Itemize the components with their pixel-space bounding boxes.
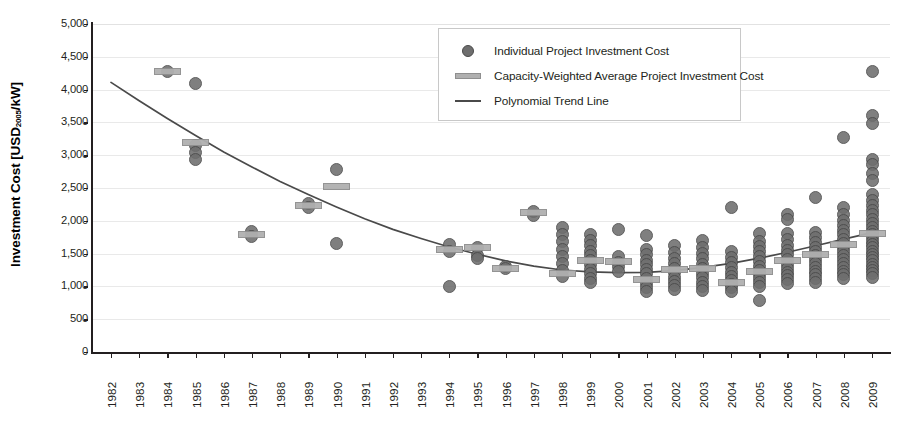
x-tick-label: 2008 (838, 362, 851, 408)
scatter-point (584, 276, 597, 289)
x-tick-label: 1993 (415, 362, 428, 408)
x-tick-mark (449, 352, 450, 358)
y-tick-label: 5,000 (44, 17, 88, 29)
y-tick-mark (84, 122, 88, 123)
x-tick-label: 1991 (359, 362, 372, 408)
gridline (93, 24, 890, 25)
x-tick-mark (196, 352, 197, 358)
scatter-point (837, 131, 850, 144)
x-tick-mark (844, 352, 845, 358)
x-tick-label: 1990 (331, 362, 344, 408)
y-tick-label: 500 (44, 312, 88, 324)
scatter-point (330, 163, 343, 176)
x-tick-label: 1987 (246, 362, 259, 408)
capacity-weighted-average-marker (774, 257, 801, 264)
y-axis-title: Investment Cost [USD2005/kW] (2, 0, 28, 351)
x-tick-mark (647, 352, 648, 358)
y-tick-label: 1,500 (44, 247, 88, 259)
scatter-point (640, 229, 653, 242)
scatter-point (189, 153, 202, 166)
scatter-point (753, 280, 766, 293)
capacity-weighted-average-marker (295, 202, 322, 209)
capacity-weighted-average-marker (577, 257, 604, 264)
y-tick-label: 2,000 (44, 214, 88, 226)
x-tick-mark (111, 352, 112, 358)
gridline (93, 286, 890, 287)
chart-legend: Individual Project Investment Cost Capac… (438, 28, 741, 121)
scatter-point (668, 283, 681, 296)
capacity-weighted-average-marker (859, 230, 886, 237)
scatter-point (725, 285, 738, 298)
x-tick-label: 1989 (302, 362, 315, 408)
x-tick-label: 2006 (781, 362, 794, 408)
scatter-point (781, 277, 794, 290)
capacity-weighted-average-marker (746, 268, 773, 275)
x-tick-label: 2005 (753, 362, 766, 408)
x-tick-label: 1996 (500, 362, 513, 408)
scatter-point (866, 117, 879, 130)
x-tick-mark (365, 352, 366, 358)
y-tick-label: 3,000 (44, 148, 88, 160)
capacity-weighted-average-marker (605, 258, 632, 265)
x-tick-mark (618, 352, 619, 358)
x-tick-mark (872, 352, 873, 358)
scatter-point (781, 213, 794, 226)
scatter-point (189, 77, 202, 90)
y-tick-mark (84, 57, 88, 58)
x-tick-label: 1985 (190, 362, 203, 408)
x-tick-label: 2007 (810, 362, 823, 408)
x-tick-mark (787, 352, 788, 358)
x-tick-mark (703, 352, 704, 358)
y-axis-tick-labels: 05001,0001,5002,0002,5003,0003,5004,0004… (40, 0, 88, 421)
capacity-weighted-average-marker (633, 276, 660, 283)
x-tick-mark (477, 352, 478, 358)
y-tick-label: 2,500 (44, 181, 88, 193)
legend-item-capacity-weighted-average: Capacity-Weighted Average Project Invest… (452, 67, 763, 85)
x-tick-mark (167, 352, 168, 358)
y-tick-label: 4,000 (44, 83, 88, 95)
capacity-weighted-average-marker (830, 241, 857, 248)
gridline (93, 254, 890, 255)
gridline (93, 319, 890, 320)
capacity-weighted-average-marker (182, 139, 209, 146)
legend-item-trend: Polynomial Trend Line (452, 92, 609, 110)
y-tick-mark (84, 24, 88, 25)
y-tick-mark (84, 352, 88, 353)
scatter-point (443, 280, 456, 293)
legend-label-capacity-weighted-average: Capacity-Weighted Average Project Invest… (494, 69, 763, 83)
x-tick-label: 1982 (105, 362, 118, 408)
x-tick-mark (759, 352, 760, 358)
gridline (93, 188, 890, 189)
scatter-point (809, 191, 822, 204)
x-tick-label: 2003 (697, 362, 710, 408)
y-tick-label: 3,500 (44, 115, 88, 127)
x-tick-mark (337, 352, 338, 358)
legend-label-individual: Individual Project Investment Cost (494, 44, 669, 58)
scatter-point (612, 223, 625, 236)
x-tick-mark (393, 352, 394, 358)
capacity-weighted-average-marker (718, 279, 745, 286)
capacity-weighted-average-marker (549, 270, 576, 277)
x-tick-mark (224, 352, 225, 358)
capacity-weighted-average-marker (323, 183, 350, 190)
x-tick-mark (534, 352, 535, 358)
y-tick-mark (84, 319, 88, 320)
x-tick-mark (139, 352, 140, 358)
x-tick-label: 1984 (161, 362, 174, 408)
x-tick-label: 1995 (471, 362, 484, 408)
x-tick-mark (252, 352, 253, 358)
legend-item-individual: Individual Project Investment Cost (452, 42, 669, 60)
gridline (93, 221, 890, 222)
x-tick-mark (506, 352, 507, 358)
capacity-weighted-average-marker (464, 244, 491, 251)
chart-figure: Investment Cost [USD2005/kW] 05001,0001,… (0, 0, 903, 421)
capacity-weighted-average-marker (689, 265, 716, 272)
capacity-weighted-average-marker (154, 68, 181, 75)
x-tick-label: 2002 (669, 362, 682, 408)
x-tick-label: 1994 (443, 362, 456, 408)
x-tick-mark (562, 352, 563, 358)
x-tick-mark (280, 352, 281, 358)
capacity-weighted-average-marker (238, 231, 265, 238)
legend-label-trend: Polynomial Trend Line (494, 94, 609, 108)
y-axis-title-subscript: 2005 (14, 110, 23, 127)
